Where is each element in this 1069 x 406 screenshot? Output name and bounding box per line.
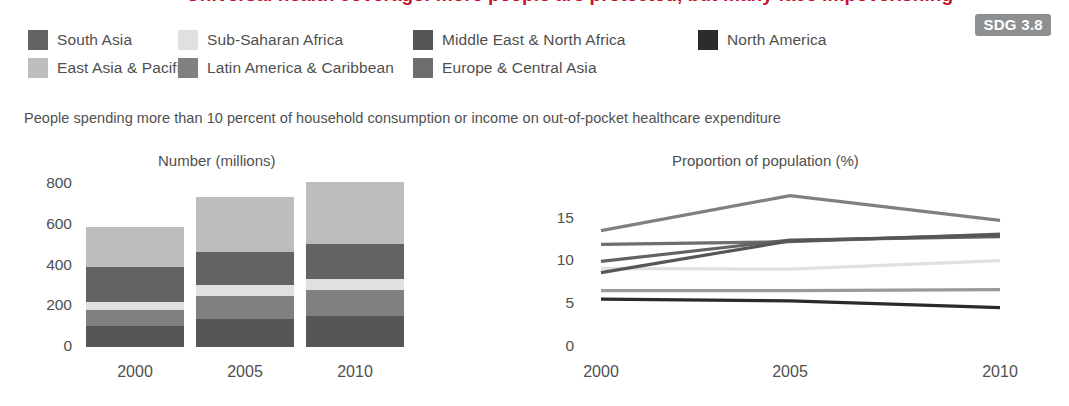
- legend-item[interactable]: Sub-Saharan Africa: [178, 30, 413, 50]
- bar-segment[interactable]: [86, 302, 184, 310]
- line-xtick-label: 2000: [561, 363, 641, 381]
- bar-ytick-label: 600: [0, 215, 72, 233]
- bar-xtick-label: 2010: [306, 363, 404, 381]
- line-ytick-label: 0: [528, 337, 574, 355]
- bar-segment[interactable]: [306, 244, 404, 280]
- bar-segment[interactable]: [196, 197, 294, 253]
- bar-column[interactable]: [306, 184, 404, 347]
- bar-ytick-label: 200: [0, 296, 72, 314]
- bar-column[interactable]: [196, 184, 294, 347]
- bar-segment[interactable]: [196, 319, 294, 347]
- legend-item[interactable]: East Asia & Pacific: [28, 58, 178, 78]
- bar-segment[interactable]: [196, 296, 294, 319]
- bar-segment[interactable]: [306, 316, 404, 347]
- legend-item[interactable]: South Asia: [28, 30, 178, 50]
- legend-swatch-icon: [28, 30, 48, 50]
- bar-segment[interactable]: [86, 310, 184, 326]
- subtitle: People spending more than 10 percent of …: [24, 110, 781, 126]
- legend-swatch-icon: [413, 30, 433, 50]
- bar-xtick-label: 2005: [196, 363, 294, 381]
- line-series[interactable]: [601, 299, 1000, 308]
- legend-label: East Asia & Pacific: [57, 59, 188, 77]
- bar-ytick-label: 0: [0, 337, 72, 355]
- line-xtick-label: 2005: [750, 363, 830, 381]
- bar-ytick-label: 800: [0, 174, 72, 192]
- line-chart-plot: [560, 160, 1020, 360]
- legend-item[interactable]: Middle East & North Africa: [413, 30, 698, 50]
- legend-label: Europe & Central Asia: [442, 59, 597, 77]
- bar-segment[interactable]: [86, 326, 184, 347]
- legend-swatch-icon: [413, 58, 433, 78]
- line-xtick-label: 2010: [960, 363, 1040, 381]
- legend: South AsiaSub-Saharan AfricaMiddle East …: [28, 26, 1028, 82]
- legend-label: North America: [727, 31, 827, 49]
- bar-segment[interactable]: [86, 267, 184, 302]
- legend-item[interactable]: Europe & Central Asia: [413, 58, 698, 78]
- bar-segment[interactable]: [306, 290, 404, 316]
- bar-segment[interactable]: [196, 285, 294, 296]
- legend-swatch-icon: [698, 30, 718, 50]
- bar-segment[interactable]: [306, 279, 404, 290]
- figure-title: Universal health coverage: more people a…: [186, 0, 953, 6]
- bar-segment[interactable]: [306, 182, 404, 243]
- legend-label: Latin America & Caribbean: [207, 59, 394, 77]
- legend-swatch-icon: [178, 30, 198, 50]
- bar-column[interactable]: [86, 184, 184, 347]
- legend-row: South AsiaSub-Saharan AfricaMiddle East …: [28, 26, 1028, 54]
- legend-swatch-icon: [178, 58, 198, 78]
- bar-segment[interactable]: [86, 227, 184, 267]
- legend-row: East Asia & PacificLatin America & Carib…: [28, 54, 1028, 82]
- legend-label: Middle East & North Africa: [442, 31, 626, 49]
- line-ytick-label: 10: [528, 251, 574, 269]
- bar-segment[interactable]: [196, 252, 294, 285]
- legend-item[interactable]: North America: [698, 30, 878, 50]
- figure-root: Universal health coverage: more people a…: [0, 0, 1069, 406]
- bar-ytick-label: 400: [0, 256, 72, 274]
- legend-label: South Asia: [57, 31, 132, 49]
- line-ytick-label: 15: [528, 209, 574, 227]
- bar-xtick-label: 2000: [86, 363, 184, 381]
- line-series[interactable]: [601, 290, 1000, 291]
- legend-item[interactable]: Latin America & Caribbean: [178, 58, 413, 78]
- line-ytick-label: 5: [528, 294, 574, 312]
- legend-label: Sub-Saharan Africa: [207, 31, 343, 49]
- clipped-title-strip: Universal health coverage: more people a…: [0, 0, 1069, 12]
- line-series[interactable]: [601, 196, 1000, 231]
- legend-swatch-icon: [28, 58, 48, 78]
